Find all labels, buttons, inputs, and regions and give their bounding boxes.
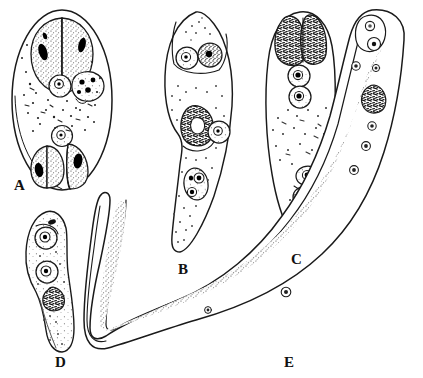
figure-b-drawing — [165, 12, 232, 252]
figure-label-a: A — [14, 178, 25, 193]
plate-drawing — [0, 0, 423, 378]
figure-label-d: D — [55, 355, 66, 370]
figure-label-c: C — [291, 252, 302, 267]
figure-a-drawing — [12, 10, 112, 190]
figure-label-e: E — [284, 355, 295, 370]
figure-d-drawing — [26, 211, 74, 352]
figure-e-drawing — [84, 10, 404, 349]
illustration-plate: A B C D E — [0, 0, 423, 378]
figure-label-b: B — [178, 262, 189, 277]
